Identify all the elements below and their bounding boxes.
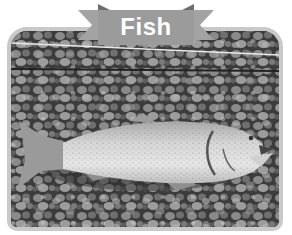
photo-card	[7, 27, 283, 231]
banner-title: Fish	[98, 10, 194, 44]
fish-photo	[11, 31, 279, 227]
